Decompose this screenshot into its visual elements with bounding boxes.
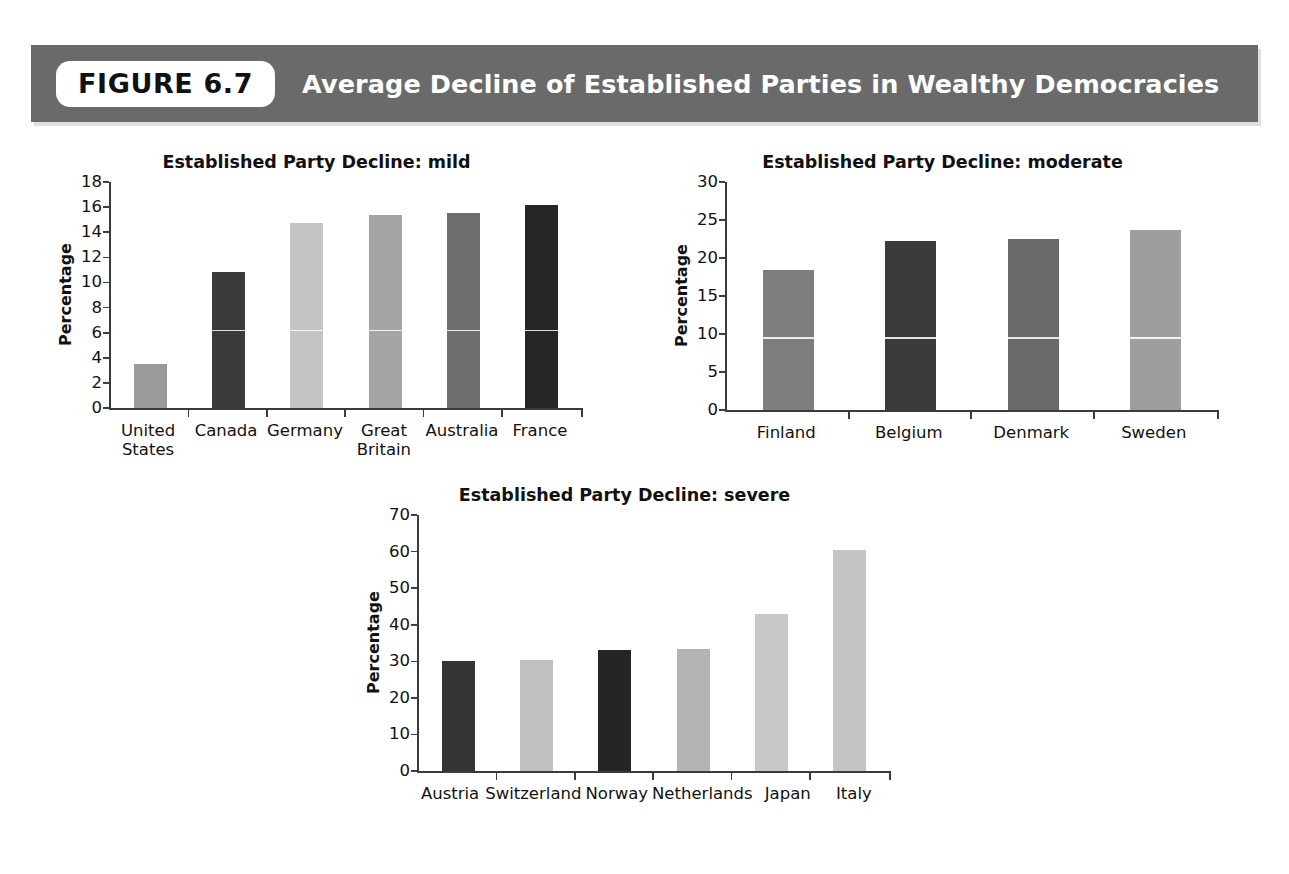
bar[interactable] — [598, 650, 631, 771]
x-axis-label: Japan — [755, 784, 821, 803]
scan-line — [134, 330, 167, 332]
bar[interactable] — [369, 215, 402, 408]
y-axis-tick-label: 15 — [697, 288, 718, 305]
x-axis-label: Switzerland — [483, 784, 583, 803]
bar[interactable] — [755, 614, 788, 771]
bar-slot — [111, 182, 189, 408]
x-axis-tick — [189, 408, 267, 417]
x-axis-label: Netherlands — [650, 784, 755, 803]
bar-slot — [654, 515, 732, 771]
x-axis-label: Italy — [821, 784, 887, 803]
bar-slot — [1095, 182, 1218, 410]
figure-number-label: FIGURE 6.7 — [78, 68, 253, 99]
plot-area — [417, 515, 889, 773]
x-axis-tick — [1095, 410, 1218, 419]
bar[interactable] — [677, 649, 710, 772]
y-axis-tick-label: 70 — [389, 507, 410, 524]
x-axis-tick — [654, 771, 732, 780]
x-axis-label: Norway — [583, 784, 650, 803]
scan-line — [369, 330, 402, 332]
scan-line — [525, 330, 558, 332]
figure-header-bar: FIGURE 6.7 Average Decline of Establishe… — [31, 45, 1258, 122]
y-axis-tick-label: 10 — [697, 326, 718, 343]
y-axis-tick-label: 16 — [81, 199, 102, 216]
y-axis-tick-label: 18 — [81, 174, 102, 191]
x-axis-tick — [972, 410, 1095, 419]
bar[interactable] — [442, 661, 475, 771]
bar-slot — [576, 515, 654, 771]
scan-line — [1008, 337, 1059, 339]
x-axis-label: Australia — [423, 421, 501, 460]
y-axis-tick-label: 20 — [697, 250, 718, 267]
scan-line — [212, 330, 245, 332]
x-axis-tick — [346, 408, 424, 417]
x-axis-tick — [576, 771, 654, 780]
y-axis-label: Percentage — [52, 182, 75, 408]
plot-area — [109, 182, 581, 410]
bar-slot — [189, 182, 267, 408]
bar-slot — [972, 182, 1095, 410]
bar[interactable] — [134, 364, 167, 408]
x-axis-label: Austria — [417, 784, 483, 803]
x-axis-labels: United StatesCanadaGermanyGreat BritainA… — [109, 421, 579, 460]
x-axis-tick — [111, 408, 189, 417]
y-axis-ticks: 010203040506070 — [383, 515, 417, 771]
bar[interactable] — [520, 660, 553, 771]
y-axis-tick-label: 25 — [697, 212, 718, 229]
bar[interactable] — [212, 272, 245, 408]
bar-slot — [850, 182, 973, 410]
bar-series — [419, 515, 889, 771]
bar[interactable] — [447, 213, 480, 408]
x-axis-tick — [419, 771, 497, 780]
figure-number-badge: FIGURE 6.7 — [56, 61, 275, 107]
bar-slot — [497, 515, 575, 771]
x-axis-label: Finland — [725, 423, 848, 442]
chart-title: Established Party Decline: severe — [360, 485, 889, 505]
bar[interactable] — [525, 205, 558, 408]
bar-slot — [268, 182, 346, 408]
x-axis-tick — [503, 408, 581, 417]
bar[interactable] — [833, 550, 866, 771]
x-axis-label: Denmark — [970, 423, 1093, 442]
y-axis-tick-label: 20 — [389, 690, 410, 707]
chart-established-party-decline-moderate: Established Party Decline: moderatePerce… — [668, 152, 1217, 442]
x-axis-tick — [497, 771, 575, 780]
bar[interactable] — [1130, 230, 1181, 410]
scan-line — [1130, 337, 1181, 339]
y-axis-tick-label: 30 — [389, 653, 410, 670]
y-axis-tick-label: 14 — [81, 224, 102, 241]
bar-slot — [732, 515, 810, 771]
y-axis-ticks: 024681012141618 — [75, 182, 109, 408]
y-axis-tick-label: 30 — [697, 174, 718, 191]
y-axis-tick-label: 0 — [92, 400, 103, 417]
y-axis-tick-label: 2 — [92, 375, 103, 392]
x-axis-label: Germany — [265, 421, 345, 460]
bar-series — [727, 182, 1217, 410]
bar[interactable] — [1008, 239, 1059, 410]
plot-area — [725, 182, 1217, 412]
bar-slot — [419, 515, 497, 771]
y-axis-tick-label: 8 — [92, 299, 103, 316]
bar[interactable] — [885, 241, 936, 410]
x-axis-tick — [850, 410, 973, 419]
bar-slot — [503, 182, 581, 408]
chart-established-party-decline-severe: Established Party Decline: severePercent… — [360, 485, 889, 803]
x-axis-ticks — [727, 410, 1217, 419]
x-axis-tick — [811, 771, 889, 780]
y-axis-tick-label: 10 — [389, 726, 410, 743]
bar[interactable] — [763, 270, 814, 410]
y-axis-tick-label: 6 — [92, 324, 103, 341]
x-axis-tick — [732, 771, 810, 780]
bar[interactable] — [290, 223, 323, 408]
figure-title: Average Decline of Established Parties i… — [302, 69, 1219, 99]
x-axis-ticks — [111, 408, 581, 417]
y-axis-tick-label: 10 — [81, 274, 102, 291]
x-axis-labels: FinlandBelgiumDenmarkSweden — [725, 423, 1215, 442]
x-axis-tick — [424, 408, 502, 417]
y-axis-tick-label: 50 — [389, 580, 410, 597]
chart-established-party-decline-mild: Established Party Decline: mildPercentag… — [52, 152, 581, 460]
x-axis-label: Canada — [187, 421, 265, 460]
x-axis-tick — [268, 408, 346, 417]
y-axis-label: Percentage — [360, 515, 383, 771]
scan-line — [447, 330, 480, 332]
